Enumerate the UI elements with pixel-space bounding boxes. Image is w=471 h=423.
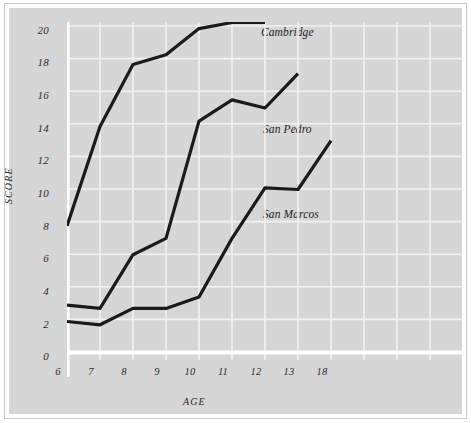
y-tick-label-12: 12	[23, 154, 49, 166]
y-axis-title: SCORE	[3, 167, 14, 204]
y-tick-label-16: 16	[23, 89, 49, 101]
chart-figure: 20 18 16 14 12 10 8 6 4 2 0 6 7 8 9 10 1…	[0, 0, 471, 423]
y-tick-label-8: 8	[23, 220, 49, 232]
chart-panel: 20 18 16 14 12 10 8 6 4 2 0 6 7 8 9 10 1…	[9, 8, 462, 414]
plot-area	[67, 22, 463, 369]
y-tick-label-0: 0	[23, 350, 49, 362]
y-tick-label-14: 14	[23, 122, 49, 134]
y-tick-label-4: 4	[23, 285, 49, 297]
y-tick-label-20: 20	[23, 24, 49, 36]
y-tick-label-6: 6	[23, 252, 49, 264]
y-tick-label-10: 10	[23, 187, 49, 199]
y-tick-label-2: 2	[23, 318, 49, 330]
y-tick-label-18: 18	[23, 56, 49, 68]
plot-svg	[67, 22, 463, 394]
x-axis-title: AGE	[183, 396, 206, 407]
